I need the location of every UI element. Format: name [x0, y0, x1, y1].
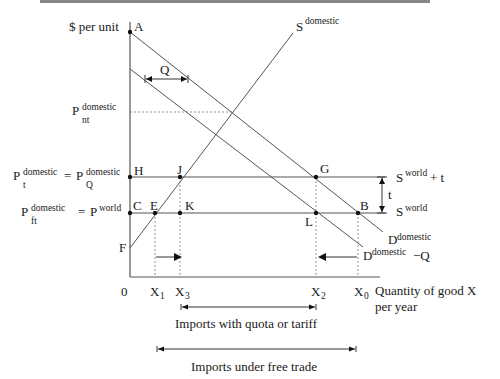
svg-text:P: P: [90, 204, 97, 219]
svg-text:ft: ft: [31, 216, 37, 226]
imports-quota-tariff-arrow: [181, 304, 316, 310]
svg-text:S: S: [296, 19, 303, 34]
quota-tariff-diagram: Q t $ per unit 0 Quantity of good X per …: [0, 0, 500, 379]
x3-tick-label: X 3: [175, 284, 190, 301]
svg-text:P: P: [72, 103, 79, 118]
svg-text:2: 2: [321, 291, 326, 301]
svg-text:domestic: domestic: [31, 203, 65, 213]
quota-gap-label: Q: [160, 62, 170, 77]
imports-free-trade-caption: Imports under free trade: [191, 359, 317, 374]
point-a-dot: [128, 30, 132, 34]
point-g-label: G: [320, 161, 329, 176]
svg-text:S: S: [396, 170, 403, 185]
price-free-trade-label: P domestic ft = P world: [21, 203, 121, 226]
svg-text:Q: Q: [86, 180, 93, 190]
svg-text:domestic: domestic: [372, 247, 406, 257]
svg-text:domestic: domestic: [82, 102, 116, 112]
svg-text:S: S: [396, 204, 403, 219]
demand-minus-quota-label: D domestic −Q: [363, 247, 430, 263]
svg-text:world: world: [405, 168, 427, 178]
svg-text:P: P: [76, 168, 83, 183]
svg-text:1: 1: [160, 291, 165, 301]
svg-text:X: X: [311, 284, 321, 299]
point-l-label: L: [305, 214, 313, 229]
demand-minus-quota-curve: [130, 69, 363, 247]
clipped-title: [40, 0, 430, 3]
svg-text:D: D: [388, 232, 397, 247]
origin-label: 0: [121, 284, 128, 299]
y-axis-label: $ per unit: [69, 19, 119, 34]
point-e-label: E: [150, 198, 158, 213]
imports-free-trade-arrow: [157, 346, 356, 352]
x1-tick-label: X 1: [150, 284, 165, 301]
x-axis-label-line2: per year: [375, 299, 418, 314]
point-j-label: J: [177, 162, 182, 177]
price-tariff-label: P domestic t = P domestic Q: [13, 167, 120, 190]
point-l-dot: [314, 211, 318, 215]
svg-text:D: D: [363, 248, 372, 263]
svg-text:nt: nt: [82, 115, 90, 125]
point-k-dot: [178, 211, 182, 215]
x-axis-label-line1: Quantity of good X: [375, 283, 477, 298]
point-f-label: F: [119, 240, 126, 255]
supply-world-label: S world: [396, 203, 427, 219]
x0-tick-label: X 0: [354, 284, 369, 301]
tariff-arrow: [377, 177, 387, 213]
svg-text:−Q: −Q: [413, 248, 430, 263]
point-b-label: B: [360, 198, 369, 213]
point-g-dot: [314, 175, 318, 179]
svg-text:P: P: [21, 204, 28, 219]
point-c-dot: [128, 211, 132, 215]
svg-text:X: X: [150, 284, 160, 299]
svg-text:P: P: [13, 168, 20, 183]
svg-text:t: t: [23, 180, 26, 190]
supply-world-plus-t-label: S world + t: [396, 168, 445, 185]
svg-text:3: 3: [185, 291, 190, 301]
svg-text:domestic: domestic: [23, 167, 57, 177]
x2-tick-label: X 2: [311, 284, 326, 301]
svg-text:X: X: [354, 284, 364, 299]
point-c-label: C: [133, 198, 142, 213]
svg-text:domestic: domestic: [397, 232, 431, 242]
left-shift-arrow: [318, 253, 357, 261]
domestic-supply-curve: [130, 33, 293, 248]
svg-text:0: 0: [364, 291, 369, 301]
demand-domestic-label: D domestic: [388, 232, 431, 247]
point-a-label: A: [134, 19, 144, 34]
point-h-label: H: [134, 163, 143, 178]
svg-text:=: =: [78, 204, 85, 219]
svg-text:=: =: [64, 168, 71, 183]
imports-quota-tariff-caption: Imports with quota or tariff: [175, 316, 318, 331]
point-h-dot: [128, 175, 132, 179]
svg-text:domestic: domestic: [305, 16, 339, 26]
svg-text:X: X: [175, 284, 185, 299]
tariff-label: t: [388, 187, 392, 202]
supply-domestic-label: S domestic: [296, 16, 339, 34]
point-k-label: K: [185, 198, 195, 213]
svg-text:world: world: [99, 203, 121, 213]
right-shift-arrow: [156, 253, 182, 261]
svg-text:domestic: domestic: [86, 167, 120, 177]
price-no-trade-label: P domestic nt: [72, 102, 116, 125]
svg-text:+ t: + t: [430, 170, 445, 185]
svg-text:world: world: [405, 203, 427, 213]
